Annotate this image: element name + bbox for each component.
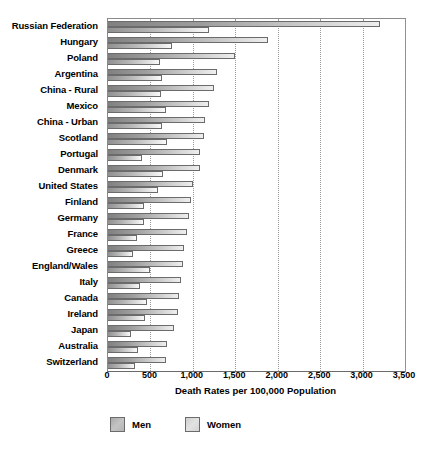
bar-men bbox=[108, 53, 235, 59]
bar-women bbox=[108, 187, 158, 193]
category-label: Japan bbox=[0, 322, 102, 338]
bar-row bbox=[108, 339, 405, 355]
bar-women bbox=[108, 155, 142, 161]
bar-row bbox=[108, 67, 405, 83]
bar-row bbox=[108, 131, 405, 147]
men-swatch-icon bbox=[110, 417, 125, 432]
legend-item-men: Men bbox=[110, 417, 151, 432]
bar-men bbox=[108, 357, 166, 363]
bar-row bbox=[108, 355, 405, 371]
bar-rows bbox=[108, 19, 405, 371]
bar-women bbox=[108, 203, 144, 209]
plot-block: Russian FederationHungaryPolandArgentina… bbox=[0, 8, 433, 368]
category-label: Italy bbox=[0, 274, 102, 290]
bar-row bbox=[108, 291, 405, 307]
bar-men bbox=[108, 117, 205, 123]
x-tick-label: 500 bbox=[142, 370, 157, 380]
bar-women bbox=[108, 299, 147, 305]
category-label: Switzerland bbox=[0, 354, 102, 370]
bar-row bbox=[108, 275, 405, 291]
bar-men bbox=[108, 341, 167, 347]
bar-men bbox=[108, 37, 268, 43]
bar-women bbox=[108, 91, 161, 97]
bar-row bbox=[108, 99, 405, 115]
category-label: Mexico bbox=[0, 98, 102, 114]
bar-row bbox=[108, 35, 405, 51]
x-axis-title: Death Rates per 100,000 Population bbox=[107, 385, 404, 396]
chart-legend: Men Women bbox=[110, 412, 370, 436]
category-label: Russian Federation bbox=[0, 18, 102, 34]
bar-women bbox=[108, 315, 145, 321]
bar-women bbox=[108, 251, 133, 257]
bar-women bbox=[108, 75, 162, 81]
bar-men bbox=[108, 213, 189, 219]
category-label: England/Wales bbox=[0, 258, 102, 274]
bar-women bbox=[108, 43, 172, 49]
bar-row bbox=[108, 227, 405, 243]
bar-women bbox=[108, 283, 140, 289]
bar-men bbox=[108, 245, 184, 251]
category-label: United States bbox=[0, 178, 102, 194]
bar-women bbox=[108, 139, 167, 145]
bar-women bbox=[108, 363, 135, 369]
bar-men bbox=[108, 21, 380, 27]
category-label: Finland bbox=[0, 194, 102, 210]
category-label: Portugal bbox=[0, 146, 102, 162]
category-label: Australia bbox=[0, 338, 102, 354]
bar-row bbox=[108, 211, 405, 227]
value-axis-ticks: 05001,0001,5002,0002,5003,0003,500 bbox=[107, 370, 404, 386]
bar-women bbox=[108, 107, 166, 113]
bar-women bbox=[108, 27, 209, 33]
bar-men bbox=[108, 309, 178, 315]
bar-men bbox=[108, 277, 181, 283]
bar-men bbox=[108, 133, 204, 139]
bar-row bbox=[108, 243, 405, 259]
category-label: Germany bbox=[0, 210, 102, 226]
bar-men bbox=[108, 69, 217, 75]
x-tick-label: 1,000 bbox=[181, 370, 204, 380]
bar-row bbox=[108, 307, 405, 323]
bar-row bbox=[108, 195, 405, 211]
bar-row bbox=[108, 115, 405, 131]
death-rates-bar-chart: Russian FederationHungaryPolandArgentina… bbox=[0, 0, 433, 451]
bar-women bbox=[108, 235, 137, 241]
category-label: Greece bbox=[0, 242, 102, 258]
bar-women bbox=[108, 347, 138, 353]
bar-men bbox=[108, 261, 183, 267]
x-tick-label: 3,000 bbox=[350, 370, 373, 380]
bar-row bbox=[108, 51, 405, 67]
bar-women bbox=[108, 267, 150, 273]
bar-women bbox=[108, 123, 162, 129]
category-label: France bbox=[0, 226, 102, 242]
bar-row bbox=[108, 323, 405, 339]
x-tick-label: 3,500 bbox=[393, 370, 416, 380]
category-label: Canada bbox=[0, 290, 102, 306]
category-label: Denmark bbox=[0, 162, 102, 178]
category-label: Poland bbox=[0, 50, 102, 66]
legend-item-women: Women bbox=[185, 417, 241, 432]
bar-men bbox=[108, 325, 174, 331]
bar-women bbox=[108, 331, 131, 337]
x-tick-label: 2,500 bbox=[308, 370, 331, 380]
bar-row bbox=[108, 147, 405, 163]
x-tick-label: 2,000 bbox=[265, 370, 288, 380]
bar-men bbox=[108, 197, 191, 203]
x-tick-label: 1,500 bbox=[223, 370, 246, 380]
category-label: China - Urban bbox=[0, 114, 102, 130]
category-axis-labels: Russian FederationHungaryPolandArgentina… bbox=[0, 18, 102, 370]
bar-men bbox=[108, 165, 200, 171]
category-label: China - Rural bbox=[0, 82, 102, 98]
bar-men bbox=[108, 181, 193, 187]
category-label: Ireland bbox=[0, 306, 102, 322]
bar-women bbox=[108, 171, 163, 177]
gridline bbox=[405, 19, 406, 371]
bar-men bbox=[108, 149, 200, 155]
plot-area bbox=[107, 18, 406, 372]
bar-men bbox=[108, 229, 187, 235]
bar-men bbox=[108, 101, 209, 107]
category-label: Argentina bbox=[0, 66, 102, 82]
category-label: Scotland bbox=[0, 130, 102, 146]
bar-row bbox=[108, 259, 405, 275]
category-label: Hungary bbox=[0, 34, 102, 50]
bar-men bbox=[108, 85, 214, 91]
